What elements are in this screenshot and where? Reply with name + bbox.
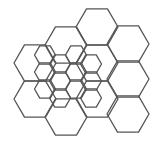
hexagon-grid xyxy=(0,0,158,141)
large-hexagon xyxy=(107,96,149,132)
large-hexagon xyxy=(107,26,149,62)
small-hexagon xyxy=(66,80,87,98)
small-hexagon xyxy=(35,63,56,81)
hexagon-tiling-diagram xyxy=(0,0,158,141)
large-hexagon xyxy=(45,99,87,135)
large-hexagon xyxy=(45,27,87,63)
small-hexagon xyxy=(66,63,87,81)
small-hexagon xyxy=(81,55,102,73)
small-hexagon xyxy=(35,46,56,64)
small-hexagon-group xyxy=(35,46,102,107)
small-hexagon xyxy=(35,80,56,98)
small-hexagon xyxy=(81,89,102,107)
small-hexagon xyxy=(66,46,87,64)
large-hexagon xyxy=(76,9,118,45)
